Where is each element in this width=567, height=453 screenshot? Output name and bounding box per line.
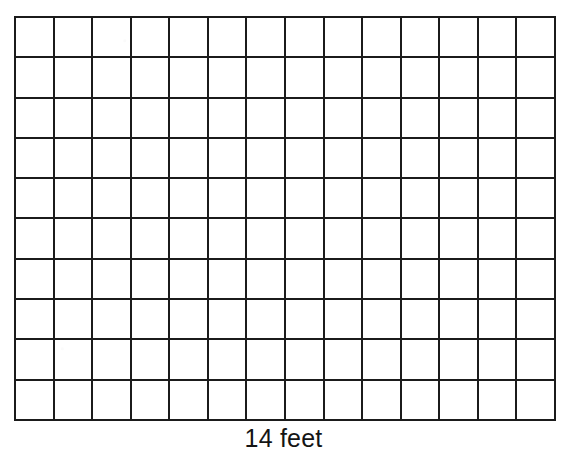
- grid-cell: [93, 179, 132, 219]
- grid-cell: [286, 260, 325, 300]
- grid-cell: [363, 260, 402, 300]
- grid-cell: [286, 300, 325, 340]
- grid-cell: [286, 139, 325, 179]
- grid-cell: [325, 340, 364, 380]
- grid-cell: [247, 139, 286, 179]
- grid-cell: [16, 179, 55, 219]
- worksheet-canvas: 14 feet: [0, 0, 567, 453]
- grid-cell: [170, 219, 209, 259]
- grid-cell: [132, 58, 171, 98]
- bottom-dimension-label: 14 feet: [0, 424, 567, 452]
- grid-cell: [479, 300, 518, 340]
- grid-cell: [402, 139, 441, 179]
- grid-cell: [209, 179, 248, 219]
- grid-cell: [132, 260, 171, 300]
- grid-cell: [325, 300, 364, 340]
- grid-cell: [402, 99, 441, 139]
- grid-cell: [247, 300, 286, 340]
- grid-cell: [16, 58, 55, 98]
- grid-cell: [440, 260, 479, 300]
- grid-cell: [247, 340, 286, 380]
- grid-cell: [402, 381, 441, 421]
- grid-cell: [16, 139, 55, 179]
- grid-cell: [517, 300, 556, 340]
- grid-cell: [247, 219, 286, 259]
- grid-cell: [440, 139, 479, 179]
- grid-cell: [209, 18, 248, 58]
- grid-cell: [402, 300, 441, 340]
- grid-cell: [363, 300, 402, 340]
- grid-cell: [479, 139, 518, 179]
- grid-cell: [363, 381, 402, 421]
- grid-cell: [93, 219, 132, 259]
- grid-cell: [402, 219, 441, 259]
- grid-cell: [209, 340, 248, 380]
- grid-cell: [286, 179, 325, 219]
- grid-cell: [16, 219, 55, 259]
- grid-cell: [440, 219, 479, 259]
- grid-cell: [209, 300, 248, 340]
- grid-cell: [247, 260, 286, 300]
- grid-cell: [325, 139, 364, 179]
- grid-cell: [325, 179, 364, 219]
- grid-cell: [517, 139, 556, 179]
- grid-cell: [440, 18, 479, 58]
- grid-cell: [132, 300, 171, 340]
- grid-cell: [55, 260, 94, 300]
- grid-cell: [325, 58, 364, 98]
- grid-cell: [363, 340, 402, 380]
- grid-cell: [325, 260, 364, 300]
- grid-cell: [170, 58, 209, 98]
- grid-cell: [132, 139, 171, 179]
- grid-cell: [363, 99, 402, 139]
- grid-cell: [517, 381, 556, 421]
- grid-cell: [209, 381, 248, 421]
- grid-cell: [170, 18, 209, 58]
- grid-cell: [170, 99, 209, 139]
- grid-cell: [479, 340, 518, 380]
- grid-cell: [440, 179, 479, 219]
- grid-cell: [16, 300, 55, 340]
- grid-cell: [93, 58, 132, 98]
- grid-cell: [247, 179, 286, 219]
- grid-cell: [93, 381, 132, 421]
- grid-cell: [55, 18, 94, 58]
- grid-cell: [93, 139, 132, 179]
- grid-cell: [517, 18, 556, 58]
- grid-cell: [517, 179, 556, 219]
- grid-cell: [93, 99, 132, 139]
- grid-cell: [325, 99, 364, 139]
- grid-cell: [402, 260, 441, 300]
- grid-cell: [286, 58, 325, 98]
- grid-cell: [170, 260, 209, 300]
- grid-cell: [16, 340, 55, 380]
- grid-cell: [363, 179, 402, 219]
- grid-cell: [55, 179, 94, 219]
- grid-cell: [363, 139, 402, 179]
- grid-cell: [440, 300, 479, 340]
- grid-cell: [132, 18, 171, 58]
- grid-cell: [440, 58, 479, 98]
- grid-cell: [479, 99, 518, 139]
- grid-cell: [363, 18, 402, 58]
- grid-cell: [402, 340, 441, 380]
- grid-cell: [402, 179, 441, 219]
- grid-cell: [93, 340, 132, 380]
- grid-cell: [286, 219, 325, 259]
- grid-cell: [325, 219, 364, 259]
- grid-cell: [132, 99, 171, 139]
- grid-cell: [286, 381, 325, 421]
- grid-cell: [170, 139, 209, 179]
- grid-cell: [170, 340, 209, 380]
- grid-cell: [286, 18, 325, 58]
- grid-cell: [247, 381, 286, 421]
- grid-cell: [93, 18, 132, 58]
- grid-cell: [247, 18, 286, 58]
- grid-cell: [363, 219, 402, 259]
- grid-cell: [55, 300, 94, 340]
- grid-cell: [55, 381, 94, 421]
- grid-cell: [402, 58, 441, 98]
- grid-cell: [132, 381, 171, 421]
- grid-cell: [479, 260, 518, 300]
- grid-cell: [517, 219, 556, 259]
